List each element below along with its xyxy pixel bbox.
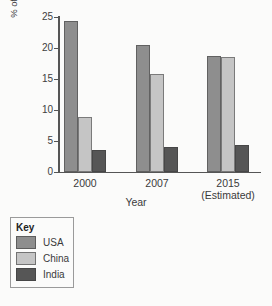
legend-label-usa: USA bbox=[43, 237, 64, 248]
x-axis-title: Year bbox=[0, 196, 272, 208]
x-tick-text-2007: 2007 bbox=[145, 177, 168, 189]
bar-china-2015[interactable] bbox=[221, 57, 235, 172]
bar-china-2007[interactable] bbox=[150, 74, 164, 172]
legend-swatch-usa-icon bbox=[16, 236, 36, 249]
bar-usa-2007[interactable] bbox=[136, 45, 150, 172]
legend-swatch-india-icon bbox=[16, 268, 36, 281]
y-axis-title-line1: % of world total energy bbox=[8, 0, 19, 18]
bar-india-2007[interactable] bbox=[164, 147, 178, 172]
y-tick-label-0: 0 bbox=[47, 167, 53, 177]
bar-group-2007 bbox=[136, 17, 180, 172]
x-tick-text-2000: 2000 bbox=[73, 177, 96, 189]
bar-group-2015 bbox=[207, 17, 251, 172]
legend-item-china[interactable]: China bbox=[16, 252, 68, 265]
bar-china-2000[interactable] bbox=[78, 117, 92, 172]
legend-label-india: India bbox=[43, 269, 65, 280]
y-tick-label-5: 5 bbox=[47, 136, 53, 146]
x-tick-text-2015: 2015 bbox=[216, 177, 239, 189]
y-tick-label-10: 10 bbox=[42, 105, 53, 115]
legend-title: Key bbox=[16, 222, 68, 233]
bar-usa-2000[interactable] bbox=[64, 21, 78, 172]
legend-item-usa[interactable]: USA bbox=[16, 236, 68, 249]
bar-group-2000 bbox=[64, 17, 108, 172]
legend-swatch-china-icon bbox=[16, 252, 36, 265]
y-tick-label-15: 15 bbox=[42, 74, 53, 84]
legend-item-india[interactable]: India bbox=[16, 268, 68, 281]
y-axis-title: % of world total energy consumption bbox=[8, 0, 38, 47]
x-tick-label-2000: 2000 bbox=[50, 177, 120, 189]
bar-usa-2015[interactable] bbox=[207, 56, 221, 172]
bar-india-2015[interactable] bbox=[235, 145, 249, 172]
bar-india-2000[interactable] bbox=[92, 150, 106, 172]
plot-area: 0 5 10 15 20 25 bbox=[58, 17, 263, 172]
x-tick-label-2007: 2007 bbox=[122, 177, 192, 189]
legend-label-china: China bbox=[43, 253, 69, 264]
bar-chart: % of world total energy consumption 0 5 … bbox=[0, 0, 272, 210]
legend-box: Key USA China India bbox=[10, 217, 74, 288]
y-tick-label-20: 20 bbox=[42, 43, 53, 53]
y-tick-label-25: 25 bbox=[42, 12, 53, 22]
chart-page: % of world total energy consumption 0 5 … bbox=[0, 0, 272, 306]
